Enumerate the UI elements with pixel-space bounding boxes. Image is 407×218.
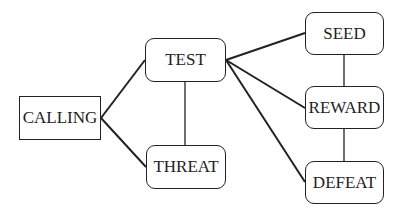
node-reward: REWARD [305,86,384,129]
diagram-canvas: CALLING TEST THREAT SEED REWARD DEFEAT [0,0,407,218]
node-threat: THREAT [146,145,226,189]
edge-test-seed [226,33,305,60]
edge-test-defeat [226,60,305,182]
edge-test-reward [226,60,305,108]
node-calling: CALLING [19,96,101,140]
edge-calling-test [101,60,145,118]
node-test: TEST [145,38,226,82]
node-defeat: DEFEAT [305,161,384,204]
edge-calling-threat [101,118,146,167]
node-seed: SEED [305,12,384,55]
